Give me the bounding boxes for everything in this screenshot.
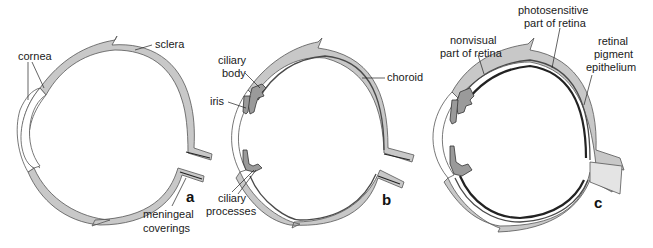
iris-lower [243,150,262,172]
label-meningeal-1: meningeal [143,208,194,220]
label-ciliary-body-2: body [222,67,246,79]
iris-lower [450,146,472,176]
sclera-shape [40,36,212,160]
label-photosensitive-1: photosensitive [518,4,588,16]
eye-wall-diagram: cornea sclera meningeal coverings a cili… [0,0,653,248]
label-nonvisual-1: nonvisual [450,34,496,46]
panel-c: nonvisual part of retina photosensitive … [433,4,636,232]
label-nonvisual-2: part of retina [440,47,503,59]
label-choroid: choroid [387,71,423,83]
sclera-shape-lower [236,170,404,228]
panel-a: cornea sclera meningeal coverings a [17,36,212,234]
label-ciliary-processes-1: ciliary [218,192,247,204]
label-ciliary-body-1: ciliary [218,54,247,66]
panel-label-b: b [382,191,391,208]
label-rpe-2: pigment [594,48,633,60]
label-photosensitive-2: part of retina [524,17,587,29]
panel-b: ciliary body iris choroid ciliary proces… [206,38,423,228]
label-meningeal-2: coverings [143,222,191,234]
panel-label-a: a [186,188,195,205]
label-ciliary-processes-2: processes [206,205,257,217]
iris-upper [243,96,250,114]
label-cornea: cornea [18,50,53,62]
label-rpe-1: retinal [598,35,628,47]
label-sclera: sclera [155,38,185,50]
panel-label-c: c [594,194,602,211]
label-iris: iris [210,95,225,107]
optic-nerve [590,162,622,194]
label-rpe-3: epithelium [586,61,636,73]
